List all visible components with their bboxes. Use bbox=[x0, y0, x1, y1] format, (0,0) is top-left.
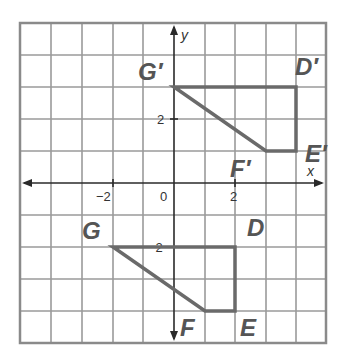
label-g: G bbox=[82, 217, 101, 244]
axes bbox=[22, 25, 324, 341]
label-g-prime: G′ bbox=[138, 58, 164, 85]
tick-label-x-neg2: −2 bbox=[96, 189, 111, 204]
label-f: F bbox=[180, 314, 196, 341]
label-e-prime: E′ bbox=[305, 140, 328, 167]
label-e: E bbox=[240, 314, 257, 341]
tick-label-y-pos2: 2 bbox=[157, 112, 164, 127]
y-axis-down-arrow-icon bbox=[170, 331, 178, 341]
tick-label-x-pos2: 2 bbox=[230, 189, 237, 204]
label-d-prime: D′ bbox=[295, 53, 319, 80]
y-axis-label: y bbox=[180, 27, 189, 43]
x-axis-left-arrow-icon bbox=[22, 179, 32, 187]
y-axis-up-arrow-icon bbox=[170, 25, 178, 35]
tick-label-origin: 0 bbox=[160, 189, 167, 204]
x-axis-right-arrow-icon bbox=[314, 179, 324, 187]
label-f-prime: F′ bbox=[230, 155, 252, 182]
coordinate-plane: y x −2 0 2 2 −2 G′ D′ E′ F′ G D E F bbox=[0, 0, 348, 360]
label-d: D bbox=[247, 214, 264, 241]
